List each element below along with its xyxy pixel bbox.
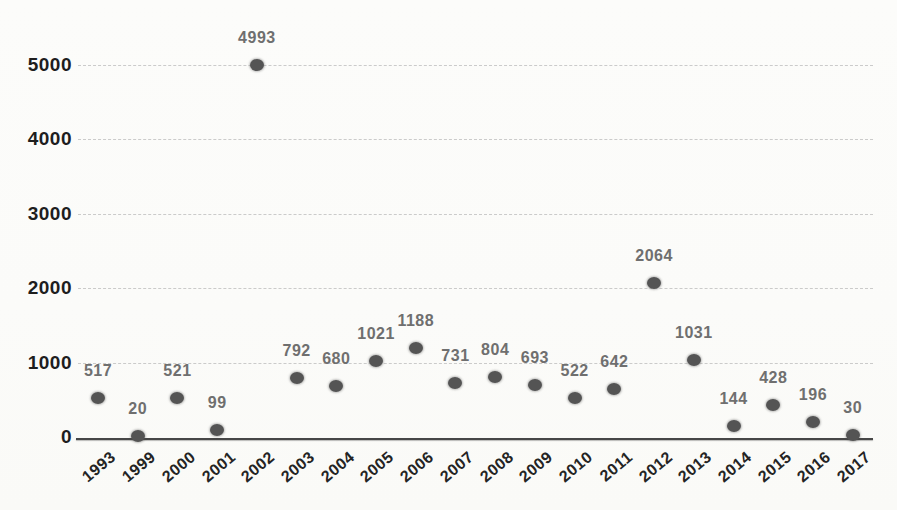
data-point-label-2012: 2064 xyxy=(635,247,673,265)
x-axis-tick-label-1993: 1993 xyxy=(79,448,119,486)
data-point-label-2016: 196 xyxy=(799,386,827,404)
x-axis-tick-label-2012: 2012 xyxy=(635,448,675,486)
y-axis-tick-label-2000: 2000 xyxy=(0,277,72,299)
data-point-2000 xyxy=(170,392,184,404)
data-point-label-1999: 20 xyxy=(128,400,147,418)
x-axis-tick-label-2016: 2016 xyxy=(794,448,834,486)
data-point-label-1993: 517 xyxy=(84,362,112,380)
data-point-label-2001: 99 xyxy=(208,394,227,412)
data-point-2008 xyxy=(488,371,502,383)
x-axis-tick-label-2000: 2000 xyxy=(159,448,199,486)
data-point-label-2008: 804 xyxy=(481,341,509,359)
data-point-label-2007: 731 xyxy=(441,347,469,365)
x-axis-tick-label-2017: 2017 xyxy=(834,448,874,486)
data-point-label-2010: 522 xyxy=(561,362,589,380)
x-axis-tick-label-2007: 2007 xyxy=(437,448,477,486)
data-point-label-2014: 144 xyxy=(719,390,747,408)
data-point-1999 xyxy=(131,430,145,442)
data-point-2010 xyxy=(568,392,582,404)
data-point-2003 xyxy=(290,372,304,384)
data-point-label-2015: 428 xyxy=(759,369,787,387)
gridline-5000 xyxy=(78,65,873,66)
scanned-scatter-chart-page: 0100020003000400050005171993201999521200… xyxy=(0,0,897,510)
x-axis-tick-label-2006: 2006 xyxy=(397,448,437,486)
data-point-2007 xyxy=(448,377,462,389)
x-axis-tick-label-2014: 2014 xyxy=(715,448,755,486)
data-point-2002 xyxy=(250,59,264,71)
data-point-2016 xyxy=(806,416,820,428)
data-point-2012 xyxy=(647,277,661,289)
data-point-2006 xyxy=(409,342,423,354)
y-axis-tick-label-5000: 5000 xyxy=(0,54,72,76)
data-point-1993 xyxy=(91,392,105,404)
x-axis-tick-label-2008: 2008 xyxy=(476,448,516,486)
data-point-2014 xyxy=(727,420,741,432)
gridline-4000 xyxy=(78,139,873,140)
data-point-label-2004: 680 xyxy=(322,350,350,368)
x-axis-tick-label-2015: 2015 xyxy=(754,448,794,486)
x-axis-tick-label-2013: 2013 xyxy=(675,448,715,486)
y-axis-tick-label-0: 0 xyxy=(0,426,72,448)
data-point-2004 xyxy=(329,380,343,392)
y-axis-tick-label-3000: 3000 xyxy=(0,203,72,225)
x-axis-tick-label-2001: 2001 xyxy=(198,448,238,486)
data-point-label-2002: 4993 xyxy=(238,29,276,47)
data-point-2011 xyxy=(607,383,621,395)
x-axis-tick-label-1999: 1999 xyxy=(119,448,159,486)
gridline-3000 xyxy=(78,214,873,215)
data-point-2009 xyxy=(528,379,542,391)
data-point-label-2003: 792 xyxy=(282,342,310,360)
gridline-2000 xyxy=(78,288,873,289)
data-point-2001 xyxy=(210,424,224,436)
data-point-label-2009: 693 xyxy=(521,349,549,367)
data-point-2013 xyxy=(687,354,701,366)
x-axis-tick-label-2003: 2003 xyxy=(278,448,318,486)
x-axis-tick-label-2002: 2002 xyxy=(238,448,278,486)
data-point-label-2005: 1021 xyxy=(357,325,395,343)
x-axis-tick-label-2005: 2005 xyxy=(357,448,397,486)
x-axis-tick-label-2004: 2004 xyxy=(318,448,358,486)
data-point-label-2006: 1188 xyxy=(397,312,434,330)
x-axis-line xyxy=(76,438,873,440)
scatter-chart: 0100020003000400050005171993201999521200… xyxy=(0,0,897,510)
x-axis-tick-label-2010: 2010 xyxy=(556,448,596,486)
gridline-1000 xyxy=(78,363,873,364)
x-axis-tick-label-2011: 2011 xyxy=(596,448,636,485)
data-point-label-2000: 521 xyxy=(163,362,191,380)
data-point-label-2017: 30 xyxy=(843,399,862,417)
x-axis-tick-label-2009: 2009 xyxy=(516,448,556,486)
data-point-2015 xyxy=(766,399,780,411)
y-axis-tick-label-4000: 4000 xyxy=(0,128,72,150)
data-point-2005 xyxy=(369,355,383,367)
data-point-label-2011: 642 xyxy=(600,353,628,371)
y-axis-tick-label-1000: 1000 xyxy=(0,352,72,374)
data-point-label-2013: 1031 xyxy=(675,324,713,342)
data-point-2017 xyxy=(846,429,860,441)
